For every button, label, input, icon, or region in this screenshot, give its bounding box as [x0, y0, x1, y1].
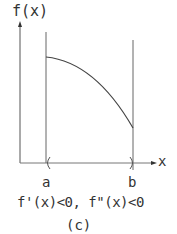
derivative-condition: f'(x)<0, f"(x)<0	[17, 195, 144, 209]
y-axis-label: f(x)	[12, 4, 48, 19]
right-bound-label: b	[128, 175, 136, 189]
function-curve	[46, 57, 133, 128]
y-axis-arrow-icon	[18, 21, 22, 27]
left-bound-label: a	[42, 175, 50, 189]
figure-caption: (c)	[66, 218, 91, 232]
x-axis-label: x	[158, 154, 166, 168]
x-axis-arrow-icon	[151, 161, 157, 165]
